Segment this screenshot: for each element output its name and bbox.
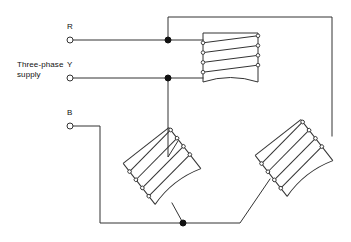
coil-top-turn-4-right-bead [256,63,260,67]
supply-label: Three-phase supply [17,60,63,80]
coil-top-turn-4 [203,65,258,72]
coil-top-turn-1-right-bead [256,34,260,38]
coil-top-turn-1 [203,36,258,43]
coil-bottom-right-right-edge [301,120,333,161]
coil-top-turn-2 [203,46,258,53]
coil-top-bottom-bow [203,78,258,83]
wire-b-supply [73,126,183,223]
coil-top-turn-1-left-bead [201,41,205,45]
coil-top-turn-3-right-bead [256,54,260,58]
coil-top-turn-3-left-bead [201,61,205,65]
coil-bottom-left-top-edge [123,128,169,164]
b-junction [180,220,186,226]
coil-bottom-left [122,127,203,206]
three-phase-winding-diagram: Three-phase supply R Y B [0,0,351,242]
coil-bottom-left-left-edge [123,163,155,204]
terminal-r[interactable] [67,37,73,43]
r-junction [165,37,171,43]
y-junction [165,75,171,81]
coil-top [201,33,260,82]
coil-top-turn-4-left-bead [201,70,205,74]
coil-top-turn-3 [203,55,258,62]
phase-r-label: R [67,22,73,32]
phase-y-label: Y [67,60,72,70]
wire-coil3-bottom [183,179,270,223]
terminal-b[interactable] [67,123,73,129]
terminal-y[interactable] [67,75,73,81]
coil-bottom-right-top-edge [255,120,301,156]
coil-bottom-right-left-edge [255,155,287,196]
wire-top-return [168,17,332,136]
diagram-canvas [0,0,351,242]
coil-top-turn-2-right-bead [256,44,260,48]
phase-b-label: B [67,108,72,118]
coil-top-turn-2-left-bead [201,51,205,55]
